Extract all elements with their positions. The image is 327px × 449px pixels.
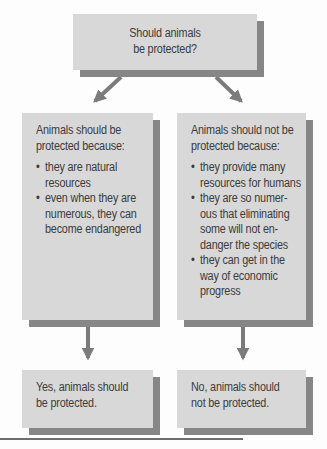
pro-reasons-box: Animals should be protected because: the…: [22, 113, 153, 320]
question-box: Should animals be protected?: [73, 14, 257, 70]
bullet-item: they are natural resources: [36, 160, 141, 191]
bullet-item: they provide many resources for humans: [191, 160, 295, 191]
no-conclusion-box: No, animals should not be protected.: [177, 370, 306, 428]
arrow-to-right-branch: [216, 77, 241, 101]
yes-conclusion-text: Yes, animals should be protected.: [36, 380, 141, 411]
bullet-item: even when they are numerous, they can be…: [36, 191, 141, 238]
bullet-item: they can get in the way of economic prog…: [191, 253, 295, 300]
pro-bullet-list: they are natural resources even when the…: [36, 160, 141, 238]
con-heading: Animals should not be protected because:: [191, 123, 295, 154]
pro-reasons-content: Animals should be protected because: the…: [36, 123, 141, 238]
con-reasons-box: Animals should not be protected because:…: [177, 113, 306, 320]
con-reasons-content: Animals should not be protected because:…: [191, 123, 295, 300]
no-conclusion-text: No, animals should not be protected.: [191, 380, 295, 411]
yes-conclusion-box: Yes, animals should be protected.: [22, 370, 153, 428]
arrow-to-left-branch: [95, 77, 121, 101]
con-bullet-list: they provide many resources for humans t…: [191, 160, 295, 300]
bullet-item: they are so numer- ous that eliminating …: [191, 191, 295, 253]
pro-heading: Animals should be protected because:: [36, 123, 141, 154]
bottom-rule-divider: [0, 438, 243, 440]
question-text: Should animals be protected?: [82, 26, 248, 57]
